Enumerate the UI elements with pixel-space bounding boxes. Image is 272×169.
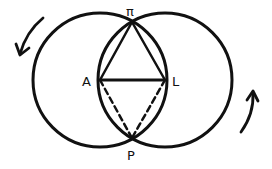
label-point-l: L	[172, 74, 180, 89]
rotation-arrow-right-icon	[241, 91, 258, 132]
vesica-piscis-diagram: π A L P	[0, 0, 272, 169]
label-point-a: A	[82, 74, 91, 89]
label-point-p: P	[127, 148, 135, 163]
label-point-pi: π	[126, 4, 134, 19]
